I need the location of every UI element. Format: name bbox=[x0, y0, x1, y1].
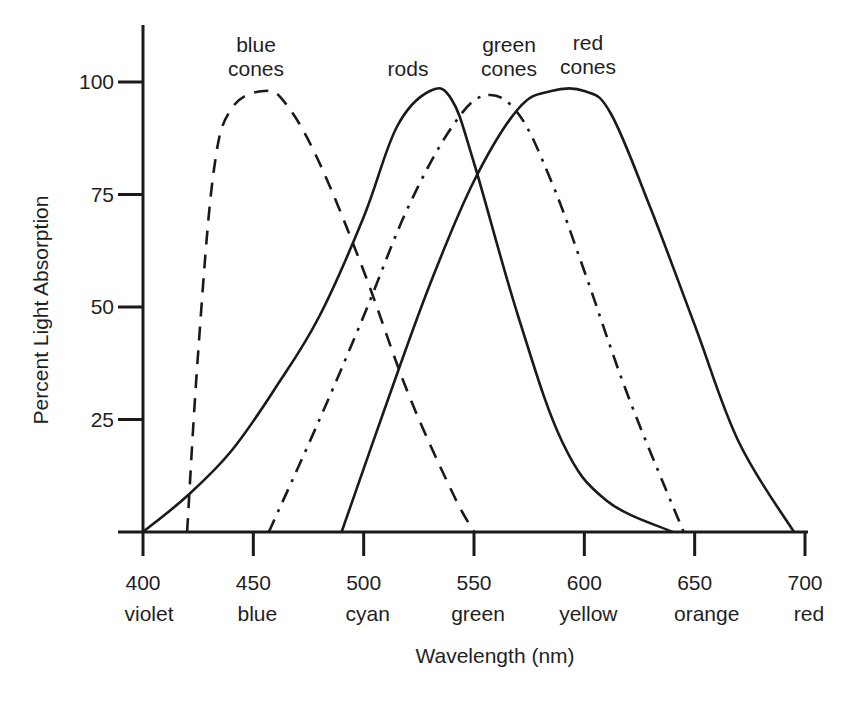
x-color-name-label: violet bbox=[124, 602, 173, 625]
x-color-name-label: cyan bbox=[345, 602, 389, 625]
red-cones-curve bbox=[342, 88, 794, 532]
y-tick-label: 75 bbox=[91, 183, 114, 206]
x-tick-label: 650 bbox=[677, 571, 712, 594]
y-tick-label: 50 bbox=[91, 295, 114, 318]
green-cones-curve bbox=[269, 95, 684, 532]
x-axis-title: Wavelength (nm) bbox=[415, 644, 574, 667]
series-label-blue-cones: blue bbox=[236, 33, 276, 56]
series-label-rods: rods bbox=[388, 57, 429, 80]
series-label-blue-cones: cones bbox=[228, 57, 284, 80]
x-tick-label: 500 bbox=[346, 571, 381, 594]
x-color-name-label: yellow bbox=[559, 602, 618, 625]
labels: 255075100400violet450blue500cyan550green… bbox=[29, 31, 824, 667]
rods-curve bbox=[143, 88, 673, 532]
series-label-green-cones: green bbox=[482, 33, 536, 56]
axes bbox=[118, 25, 808, 556]
absorption-spectrum-chart: 255075100400violet450blue500cyan550green… bbox=[0, 0, 864, 701]
x-tick-label: 700 bbox=[787, 571, 822, 594]
x-tick-label: 400 bbox=[125, 571, 160, 594]
x-color-name-label: blue bbox=[237, 602, 277, 625]
blue-cones-curve bbox=[187, 91, 474, 532]
x-tick-label: 550 bbox=[456, 571, 491, 594]
y-tick-label: 100 bbox=[79, 70, 114, 93]
absorption-curves bbox=[143, 88, 794, 532]
series-label-red-cones: red bbox=[573, 31, 603, 54]
x-color-name-label: orange bbox=[674, 602, 739, 625]
series-label-green-cones: cones bbox=[481, 57, 537, 80]
x-color-name-label: green bbox=[451, 602, 505, 625]
y-axis-title: Percent Light Absorption bbox=[29, 196, 52, 425]
series-label-red-cones: cones bbox=[560, 55, 616, 78]
x-tick-label: 600 bbox=[567, 571, 602, 594]
x-tick-label: 450 bbox=[236, 571, 271, 594]
y-tick-label: 25 bbox=[91, 408, 114, 431]
x-color-name-label: red bbox=[794, 602, 824, 625]
